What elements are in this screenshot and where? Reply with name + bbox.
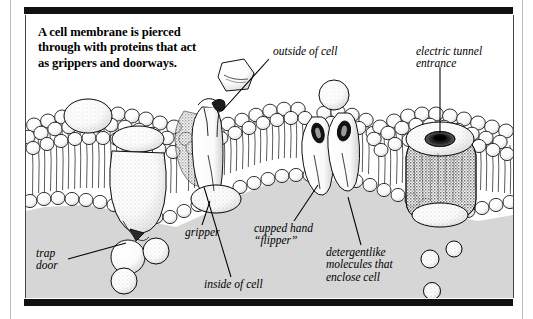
label-line: trap: [36, 247, 58, 259]
label-outside-of-cell: outside of cell: [273, 45, 338, 58]
label-inside-of-cell: inside of cell: [204, 278, 263, 291]
label-cupped-hand-flipper: cupped hand “flipper”: [254, 222, 313, 247]
label-electric-tunnel-entrance: electric tunnel entrance: [416, 45, 482, 70]
title-line-3: as grippers and doorways.: [38, 56, 288, 71]
label-line: entrance: [416, 57, 482, 69]
electric-tunnel-pore: [406, 122, 476, 227]
label-trap-door: trap door: [36, 247, 58, 272]
label-line: electric tunnel: [416, 45, 482, 57]
figure-frame: A cell membrane is pierced through with …: [24, 7, 513, 306]
page-gutter-rule-left: [10, 0, 11, 319]
label-line: detergentlike: [326, 246, 393, 258]
label-line: “flipper”: [254, 234, 313, 246]
figure-page: A cell membrane is pierced through with …: [0, 0, 533, 319]
page-gutter-rule-right: [522, 0, 523, 319]
label-line: outside of cell: [273, 45, 338, 58]
label-gripper: gripper: [185, 226, 220, 239]
figure-bottom-rule: [24, 299, 513, 306]
title-line-1: A cell membrane is pierced: [38, 25, 288, 40]
label-detergentlike-molecules: detergentlike molecules that enclose cel…: [326, 246, 393, 283]
label-line: gripper: [185, 226, 220, 239]
label-line: inside of cell: [204, 278, 263, 291]
figure-top-rule: [24, 7, 513, 14]
label-line: cupped hand: [254, 222, 313, 234]
label-line: door: [36, 259, 58, 271]
figure-caption-title: A cell membrane is pierced through with …: [38, 25, 288, 71]
illustration-plate: A cell membrane is pierced through with …: [25, 15, 514, 298]
label-line: enclose cell: [326, 271, 393, 283]
title-line-2: through with proteins that act: [38, 40, 288, 55]
cupped-hand-flipper: [302, 113, 360, 195]
label-line: molecules that: [326, 258, 393, 270]
